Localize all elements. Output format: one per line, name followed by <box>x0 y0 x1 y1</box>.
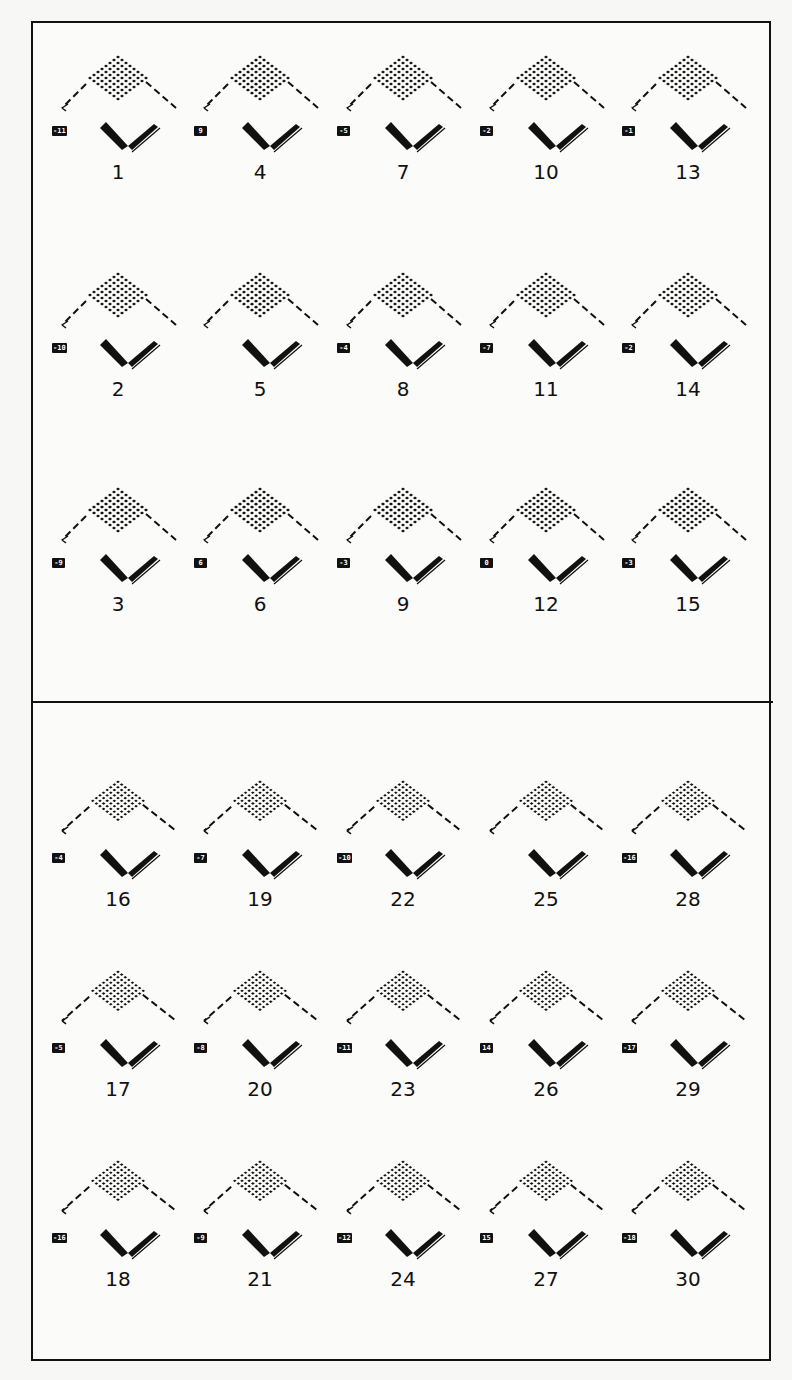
mesh-surface-icon <box>333 1135 473 1265</box>
value-tag: -3 <box>337 558 350 568</box>
surface-plot-panel: 1426 <box>476 945 616 1155</box>
surface-plot-panel: -1123 <box>333 945 473 1155</box>
panel-number: 20 <box>190 1077 330 1101</box>
surface-plot-panel: -315 <box>618 460 758 670</box>
value-tag: -11 <box>52 126 67 136</box>
mesh-surface-icon <box>476 945 616 1075</box>
value-tag: -3 <box>622 558 635 568</box>
value-tag: -7 <box>194 853 207 863</box>
mesh-surface-icon <box>618 460 758 590</box>
value-tag: -11 <box>337 1043 352 1053</box>
panel-number: 4 <box>190 160 330 184</box>
value-tag: -2 <box>622 343 635 353</box>
mesh-surface-icon <box>333 460 473 590</box>
mesh-surface-icon <box>618 755 758 885</box>
value-tag: -16 <box>622 853 637 863</box>
mesh-surface-icon <box>48 28 188 158</box>
mesh-surface-icon <box>48 945 188 1075</box>
panel-number: 16 <box>48 887 188 911</box>
value-tag: -4 <box>337 343 350 353</box>
surface-plot-panel: -921 <box>190 1135 330 1345</box>
panel-number: 27 <box>476 1267 616 1291</box>
value-tag: -1 <box>622 126 635 136</box>
value-tag: 15 <box>480 1233 493 1243</box>
surface-plot-panel: 94 <box>190 28 330 238</box>
value-tag: -17 <box>622 1043 637 1053</box>
surface-plot-panel: -93 <box>48 460 188 670</box>
value-tag: -5 <box>52 1043 65 1053</box>
surface-plot-panel: -39 <box>333 460 473 670</box>
surface-plot-panel: -517 <box>48 945 188 1155</box>
mesh-surface-icon <box>190 28 330 158</box>
value-tag: -7 <box>480 343 493 353</box>
panel-number: 30 <box>618 1267 758 1291</box>
panel-number: 21 <box>190 1267 330 1291</box>
mesh-surface-icon <box>48 1135 188 1265</box>
value-tag: 6 <box>194 558 207 568</box>
mesh-surface-icon <box>618 28 758 158</box>
surface-plot-panel: -57 <box>333 28 473 238</box>
mesh-surface-icon <box>48 245 188 375</box>
mesh-surface-icon <box>618 245 758 375</box>
panel-number: 6 <box>190 592 330 616</box>
surface-plot-panel: -711 <box>476 245 616 455</box>
surface-plot-panel: -214 <box>618 245 758 455</box>
mesh-surface-icon <box>190 460 330 590</box>
mesh-surface-icon <box>476 1135 616 1265</box>
panel-number: 24 <box>333 1267 473 1291</box>
mesh-surface-icon <box>190 1135 330 1265</box>
panel-number: 28 <box>618 887 758 911</box>
surface-plot-panel: 1527 <box>476 1135 616 1345</box>
panel-number: 11 <box>476 377 616 401</box>
section-divider <box>31 701 773 703</box>
panel-number: 19 <box>190 887 330 911</box>
value-tag: -9 <box>194 1233 207 1243</box>
panel-number: 5 <box>190 377 330 401</box>
mesh-surface-icon <box>618 1135 758 1265</box>
surface-plot-panel: -1830 <box>618 1135 758 1345</box>
value-tag: -12 <box>337 1233 352 1243</box>
value-tag: -10 <box>52 343 67 353</box>
surface-plot-panel: -1224 <box>333 1135 473 1345</box>
mesh-surface-icon <box>476 460 616 590</box>
mesh-surface-icon <box>48 460 188 590</box>
value-tag: -2 <box>480 126 493 136</box>
surface-plot-panel: -719 <box>190 755 330 965</box>
mesh-surface-icon <box>48 755 188 885</box>
mesh-surface-icon <box>476 28 616 158</box>
mesh-surface-icon <box>476 755 616 885</box>
surface-plot-panel: -1628 <box>618 755 758 965</box>
value-tag: 9 <box>194 126 207 136</box>
mesh-surface-icon <box>333 245 473 375</box>
value-tag: -8 <box>194 1043 207 1053</box>
panel-number: 3 <box>48 592 188 616</box>
surface-plot-panel: 5 <box>190 245 330 455</box>
value-tag: 0 <box>480 558 493 568</box>
panel-number: 10 <box>476 160 616 184</box>
panel-number: 7 <box>333 160 473 184</box>
mesh-surface-icon <box>333 945 473 1075</box>
panel-number: 13 <box>618 160 758 184</box>
surface-plot-panel: -113 <box>618 28 758 238</box>
surface-plot-panel: -820 <box>190 945 330 1155</box>
panel-number: 18 <box>48 1267 188 1291</box>
value-tag: 14 <box>480 1043 493 1053</box>
mesh-surface-icon <box>476 245 616 375</box>
panel-number: 14 <box>618 377 758 401</box>
value-tag: -4 <box>52 853 65 863</box>
panel-number: 9 <box>333 592 473 616</box>
mesh-surface-icon <box>190 245 330 375</box>
surface-plot-panel: 012 <box>476 460 616 670</box>
value-tag: -10 <box>337 853 352 863</box>
surface-plot-panel: 25 <box>476 755 616 965</box>
surface-plot-panel: -1618 <box>48 1135 188 1345</box>
panel-number: 8 <box>333 377 473 401</box>
surface-plot-panel: 66 <box>190 460 330 670</box>
surface-plot-panel: -210 <box>476 28 616 238</box>
value-tag: -5 <box>337 126 350 136</box>
surface-plot-panel: -102 <box>48 245 188 455</box>
value-tag: -9 <box>52 558 65 568</box>
value-tag: -18 <box>622 1233 637 1243</box>
mesh-surface-icon <box>333 28 473 158</box>
mesh-surface-icon <box>190 755 330 885</box>
